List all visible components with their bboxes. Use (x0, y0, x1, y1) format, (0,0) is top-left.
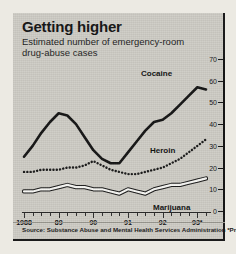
x-axis-tick-major (59, 213, 60, 218)
series-heroin (24, 139, 206, 174)
x-axis-tick-minor (145, 213, 146, 216)
series-marijuana (24, 178, 206, 193)
page-title: Getting higher (22, 18, 122, 35)
x-axis-tick-major (93, 213, 94, 218)
source-divider (13, 222, 225, 223)
x-axis-tick-minor (67, 213, 68, 216)
y-axis-tick (218, 146, 223, 147)
chart-subtitle: Estimated number of emergency-room drug-… (22, 36, 197, 58)
y-axis-label: 0 (213, 208, 217, 215)
y-axis-line (223, 57, 225, 215)
y-axis-label: 40 (209, 121, 217, 128)
x-axis-tick-minor (171, 213, 172, 216)
x-axis-tick-minor (119, 213, 120, 216)
x-axis-tick-minor (50, 213, 51, 216)
y-axis-tick (218, 59, 223, 60)
x-axis-tick-minor (102, 213, 103, 216)
x-axis-tick-major (197, 213, 198, 218)
y-axis-tick (218, 211, 223, 212)
x-axis-tick-minor (76, 213, 77, 216)
series-label-marijuana: Marijuana (153, 203, 190, 212)
x-axis-tick-major (163, 213, 164, 218)
y-axis-label: 20 (209, 164, 217, 171)
chart-card: Getting higher Estimated number of emerg… (13, 13, 225, 241)
y-axis: 010203040506070 (209, 57, 225, 213)
series-label-cocaine: Cocaine (141, 69, 172, 78)
x-axis-tick-major (128, 213, 129, 218)
x-axis-tick-minor (111, 213, 112, 216)
y-axis-label: 50 (209, 99, 217, 106)
source-note: Source: Substance Abuse and Mental Healt… (22, 226, 236, 233)
newsprint-background: Getting higher Estimated number of emerg… (0, 0, 236, 254)
x-axis-tick-minor (189, 213, 190, 216)
y-axis-label: 70 (209, 56, 217, 63)
series-cocaine (24, 87, 206, 163)
x-axis-tick-minor (41, 213, 42, 216)
x-axis-tick-minor (206, 213, 207, 216)
chart-lines (22, 59, 208, 211)
y-axis-tick (218, 102, 223, 103)
y-axis-tick (218, 124, 223, 125)
y-axis-tick (218, 81, 223, 82)
x-axis-tick-minor (154, 213, 155, 216)
x-axis-tick-major (24, 213, 25, 218)
series-label-heroin: Heroin (150, 146, 175, 155)
y-axis-label: 60 (209, 77, 217, 84)
y-axis-tick (218, 168, 223, 169)
y-axis-label: 10 (209, 186, 217, 193)
plot-area (22, 59, 208, 211)
x-axis-tick-minor (33, 213, 34, 216)
x-axis-tick-minor (137, 213, 138, 216)
x-axis-tick-minor (85, 213, 86, 216)
y-axis-label: 30 (209, 142, 217, 149)
x-axis-tick-minor (180, 213, 181, 216)
y-axis-tick (218, 189, 223, 190)
